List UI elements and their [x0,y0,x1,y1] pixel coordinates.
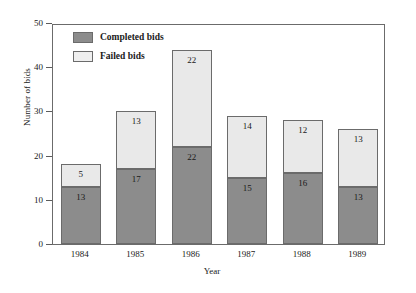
bar-value-completed: 16 [298,178,307,189]
bar-segment-completed[interactable]: 15 [227,178,267,244]
y-tick-label: 40 [34,61,43,73]
x-axis-title: Year [0,266,416,276]
legend-swatch-completed-icon [73,32,93,43]
bar-value-failed: 12 [298,125,307,136]
y-tick-label: 0 [39,238,44,250]
y-tick-label: 50 [34,17,43,29]
bar-group[interactable]: 1313 [338,129,378,244]
plot-area: 13517132222151416121313 Completed bids F… [52,24,385,245]
bar-segment-failed[interactable]: 12 [283,120,323,173]
bar-segment-completed[interactable]: 13 [338,187,378,244]
x-tick-label: 1984 [52,249,108,259]
bar-segment-completed[interactable]: 22 [172,147,212,244]
bar-value-completed: 17 [132,174,141,185]
bar-group[interactable]: 1612 [283,120,323,244]
bar-segment-completed[interactable]: 13 [61,187,101,244]
bar-value-failed: 22 [187,55,196,66]
bar-value-completed: 13 [76,192,85,203]
legend-swatch-failed-icon [73,51,93,62]
x-tick-label: 1985 [108,249,164,259]
legend-item-failed: Failed bids [73,48,164,64]
bar-segment-failed[interactable]: 5 [61,164,101,186]
bar-segment-failed[interactable]: 14 [227,116,267,178]
bar-segment-failed[interactable]: 13 [338,129,378,186]
x-tick-label: 1987 [219,249,275,259]
y-tick-label: 30 [34,105,43,117]
bar-segment-completed[interactable]: 16 [283,173,323,244]
bar-group[interactable]: 2222 [172,50,212,244]
bar-value-completed: 13 [354,192,363,203]
x-axis-title-text: Year [204,266,221,276]
bar-value-failed: 14 [243,121,252,132]
legend-label-completed: Completed bids [100,32,164,42]
y-tick-label: 10 [34,194,43,206]
x-tick-label: 1986 [163,249,219,259]
x-tick-label: 1989 [330,249,386,259]
x-tick-label: 1988 [274,249,330,259]
bar-group[interactable]: 135 [61,164,101,244]
bar-segment-failed[interactable]: 22 [172,50,212,147]
y-axis-title: Number of bids [22,22,32,172]
bar-value-failed: 13 [354,134,363,145]
bar-segment-failed[interactable]: 13 [116,111,156,168]
bar-value-failed: 5 [79,169,84,180]
legend-label-failed: Failed bids [100,51,145,61]
chart-legend: Completed bids Failed bids [73,29,164,67]
bar-value-completed: 22 [187,152,196,163]
legend-item-completed: Completed bids [73,29,164,45]
y-tick-label: 20 [34,150,43,162]
bar-value-failed: 13 [132,116,141,127]
bar-value-completed: 15 [243,183,252,194]
bar-segment-completed[interactable]: 17 [116,169,156,244]
bar-group[interactable]: 1514 [227,116,267,244]
bar-group[interactable]: 1713 [116,111,156,244]
stacked-bar-chart: Number of bids 01020304050 1351713222215… [0,0,416,293]
